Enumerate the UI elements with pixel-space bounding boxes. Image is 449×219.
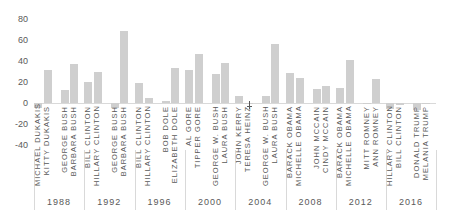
category-label: GEORGE BUSH	[60, 106, 69, 186]
category-label: AL GORE	[184, 106, 193, 186]
y-tick-label: -40	[0, 140, 28, 150]
error-bar	[249, 101, 250, 109]
bar	[70, 64, 78, 103]
category-label: MICHAEL DUKAKIS	[33, 106, 42, 186]
category-label: TIPPER GORE	[193, 106, 202, 186]
category-label: BILL CLINTON	[83, 106, 92, 186]
category-label: MICHELLE OBAMA	[294, 106, 303, 186]
category-label: BARBARA BUSH	[69, 106, 78, 186]
year-label: 1988	[34, 197, 84, 207]
error-bar-cap	[247, 106, 252, 107]
bar	[336, 88, 344, 103]
category-label: ANN ROMNEY	[371, 106, 380, 186]
bar	[61, 90, 69, 103]
year-label: 2004	[235, 197, 285, 207]
y-tick-label: 0	[0, 98, 28, 108]
y-tick-label: 20	[0, 77, 28, 87]
bar	[262, 96, 270, 103]
bar	[372, 79, 380, 103]
bar	[195, 54, 203, 103]
category-label: HILLARY CLINTON	[143, 106, 152, 186]
category-label: ELIZABETH DOLE	[170, 106, 179, 186]
bar	[185, 70, 193, 103]
bar	[135, 83, 143, 103]
category-label: GEORGE BUSH	[110, 106, 119, 186]
bar	[221, 63, 229, 103]
category-label: BOB DOLE	[161, 106, 170, 186]
y-tick-label: 60	[0, 35, 28, 45]
bar	[271, 44, 279, 103]
y-tick-label: -20	[0, 119, 28, 129]
category-label: MELANIA TRUMP	[421, 106, 430, 186]
category-label: LAURA BUSH	[220, 106, 229, 186]
year-label: 1992	[84, 197, 134, 207]
category-label: LAURA BUSH	[270, 106, 279, 186]
bar	[313, 89, 321, 103]
category-label: HILLARY CLINTON	[92, 106, 101, 186]
bar	[145, 98, 153, 103]
category-label: JOHN MCCAIN	[312, 106, 321, 186]
zero-axis-line	[34, 103, 436, 104]
category-label: CINDY MCCAIN	[321, 106, 330, 186]
category-label: JOHN KERRY	[234, 106, 243, 186]
category-label: DONALD TRUMP	[412, 106, 421, 186]
category-label: BARBARA BUSH	[119, 106, 128, 186]
y-tick-label: 80	[0, 14, 28, 24]
bar	[162, 101, 170, 103]
bar	[396, 103, 404, 105]
bar	[346, 60, 354, 103]
category-label: BILL CLINTON	[394, 106, 403, 186]
year-label: 2000	[185, 197, 235, 207]
category-label: HILLARY CLINTON	[385, 106, 394, 186]
bar	[84, 82, 92, 103]
category-label: GEORGE W. BUSH	[211, 106, 220, 186]
bar-chart: 806040200-20-40MICHAEL DUKAKISKITTY DUKA…	[0, 0, 449, 219]
category-label: KITTY DUKAKIS	[42, 106, 51, 186]
bar	[422, 103, 430, 104]
bar	[235, 96, 243, 103]
bar	[171, 68, 179, 103]
y-tick-label: 40	[0, 56, 28, 66]
category-label: BARACK OBAMA	[285, 106, 294, 186]
bar	[44, 70, 52, 103]
category-label: BILL CLINTON	[134, 106, 143, 186]
year-label: 2008	[286, 197, 336, 207]
category-label: TERESA HEINZ	[243, 106, 252, 186]
category-label: MITT ROMNEY	[362, 106, 371, 186]
category-label: BARACK OBAMA	[335, 106, 344, 186]
year-label: 1996	[135, 197, 185, 207]
bar	[286, 73, 294, 103]
bar	[94, 72, 102, 104]
year-label: 2012	[336, 197, 386, 207]
year-label: 2016	[386, 197, 436, 207]
bar	[120, 31, 128, 103]
bar	[212, 74, 220, 103]
category-label: GEORGE W. BUSH	[261, 106, 270, 186]
bar	[363, 103, 371, 104]
category-label: MICHELLE OBAMA	[344, 106, 353, 186]
bar	[322, 86, 330, 103]
bar	[296, 78, 304, 103]
group-separator	[436, 150, 437, 210]
